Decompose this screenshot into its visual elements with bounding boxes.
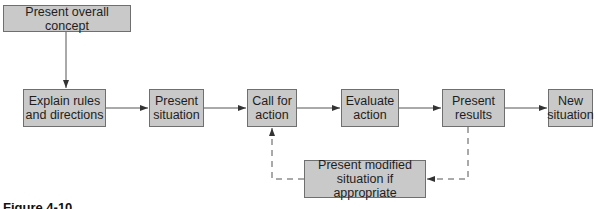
node-label-line: results [455,108,492,122]
node-label: Evaluate action [346,94,395,122]
node-label-line: Evaluate [346,94,395,108]
node-label-line: Explain rules [29,94,101,108]
figure-caption: Figure 4-10 [3,200,72,209]
node-label: Present modified situation if appropriat… [305,158,425,200]
node-explain-rules: Explain rules and directions [23,89,106,127]
node-label: Present situation [153,94,200,122]
node-label: New situation [547,94,594,122]
edge-results-modified [427,127,468,179]
node-label-line: situation [547,108,594,122]
node-label-line: action [353,108,386,122]
node-label: Present overall concept [4,5,130,33]
node-label-line: Present modified [318,158,412,172]
node-label: Explain rules and directions [26,94,104,122]
node-label-line: New [558,94,583,108]
node-label-line: Present [155,94,198,108]
node-label: Call for action [252,94,292,122]
edge-modified-call [272,128,304,179]
node-label-line: action [255,108,288,122]
node-present-modified-situation: Present modified situation if appropriat… [304,160,426,198]
node-present-situation: Present situation [149,89,204,127]
node-label-line: situation if appropriate [333,172,396,200]
node-evaluate-action: Evaluate action [341,89,399,127]
node-present-results: Present results [442,89,505,127]
node-label-line: Call for [252,94,292,108]
node-label-line: Present [452,94,495,108]
node-label-line: situation [153,108,200,122]
node-call-for-action: Call for action [247,89,297,127]
node-present-overall-concept: Present overall concept [3,5,131,32]
node-label-line: and directions [26,108,104,122]
node-new-situation: New situation [548,89,593,127]
node-label: Present results [452,94,495,122]
